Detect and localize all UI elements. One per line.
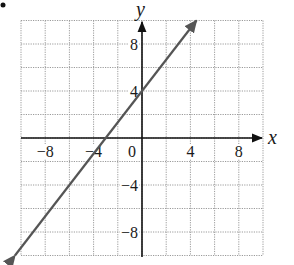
y-tick-label: −4 [121,177,138,194]
y-tick-label: 8 [130,36,138,53]
y-axis-label: y [134,0,145,21]
x-tick-label: 0 [128,143,136,160]
bullet-marker [1,3,6,8]
x-tick-labels: −8−4048 [36,143,244,160]
x-tick-label: 8 [235,143,243,160]
y-tick-label: −8 [121,224,138,241]
x-tick-label: −8 [37,143,54,160]
coordinate-plane-chart: x y −8−4048 84−4−8 [0,0,294,265]
x-axis-label: x [267,126,277,148]
x-tick-label: 4 [186,143,194,160]
